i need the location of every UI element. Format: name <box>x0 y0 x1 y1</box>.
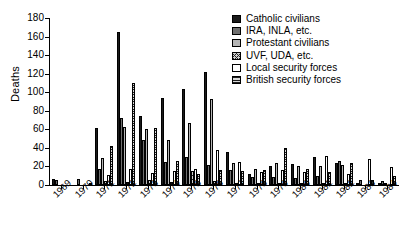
legend-swatch-protestant-civilians-icon <box>232 39 241 47</box>
bar-group-1972 <box>115 18 137 185</box>
legend-label: Catholic civilians <box>246 14 320 24</box>
y-tick-label: 100 <box>18 87 44 97</box>
bar-group-1970 <box>72 18 94 185</box>
y-tick-label: 140 <box>18 50 44 60</box>
bar-chart: Deaths 020406080100120140160180 19691970… <box>0 0 410 228</box>
y-tick-mark <box>45 55 49 56</box>
legend-item-protestant-civilians[interactable]: Protestant civilians <box>232 37 408 49</box>
bar-group-1971 <box>94 18 116 185</box>
x-label-cell: 1976 <box>202 190 224 228</box>
legend-label: Protestant civilians <box>246 38 329 48</box>
x-label-cell: 1971 <box>94 190 116 228</box>
y-tick-mark <box>45 18 49 19</box>
x-label-cell: 1972 <box>115 190 137 228</box>
legend-label: British security forces <box>246 75 341 85</box>
y-tick-mark <box>45 129 49 130</box>
bar-group-1975 <box>181 18 203 185</box>
x-axis-tick-labels: 1969197019711972197319741975197619771978… <box>50 190 398 228</box>
y-tick-mark <box>45 148 49 149</box>
legend-item-ira-inla-etc[interactable]: IRA, INLA, etc. <box>232 25 408 37</box>
y-tick-mark <box>45 74 49 75</box>
legend-swatch-ira-inla-icon <box>232 27 241 35</box>
y-tick-label: 180 <box>18 13 44 23</box>
legend-label: UVF, UDA, etc. <box>246 51 313 61</box>
y-tick-label: 160 <box>18 32 44 42</box>
x-label-cell: 1973 <box>137 190 159 228</box>
y-tick-label: 40 <box>18 143 44 153</box>
x-label-cell: 1969 <box>50 190 72 228</box>
legend-item-catholic-civilians[interactable]: Catholic civilians <box>232 13 408 25</box>
bar-group-1973 <box>137 18 159 185</box>
x-label-cell: 1979 <box>268 190 290 228</box>
y-tick-label: 0 <box>18 180 44 190</box>
legend-label: IRA, INLA, etc. <box>246 26 312 36</box>
legend-swatch-local-security-forces-icon <box>232 64 241 72</box>
y-tick-mark <box>45 92 49 93</box>
y-axis-tick-labels: 020406080100120140160180 <box>18 0 44 228</box>
y-tick-label: 20 <box>18 161 44 171</box>
x-label-cell: 1984 <box>376 190 398 228</box>
legend-swatch-british-security-forces-icon <box>232 76 241 84</box>
y-tick-mark <box>45 111 49 112</box>
y-tick-label: 60 <box>18 124 44 134</box>
y-tick-label: 80 <box>18 106 44 116</box>
legend-swatch-catholic-civilians-icon <box>232 15 241 23</box>
y-tick-mark <box>45 185 49 186</box>
legend-item-british-security-forces[interactable]: British security forces <box>232 74 408 86</box>
legend-item-uvf-uda-etc[interactable]: UVF, UDA, etc. <box>232 50 408 62</box>
x-label-cell: 1981 <box>311 190 333 228</box>
y-tick-mark <box>45 37 49 38</box>
x-label-cell: 1982 <box>333 190 355 228</box>
x-label-cell: 1974 <box>159 190 181 228</box>
bar-1976-protestant-civilians <box>210 99 213 185</box>
bar-group-1974 <box>159 18 181 185</box>
bar-1974-protestant-civilians <box>167 140 170 185</box>
legend-swatch-uvf-uda-icon <box>232 52 241 60</box>
x-label-cell: 1970 <box>72 190 94 228</box>
legend-label: Local security forces <box>246 63 337 73</box>
chart-legend: Catholic civiliansIRA, INLA, etc.Protest… <box>232 13 408 86</box>
legend-item-local-security-forces[interactable]: Local security forces <box>232 62 408 74</box>
bar-1973-protestant-civilians <box>145 129 148 185</box>
x-label-cell: 1978 <box>246 190 268 228</box>
y-tick-mark <box>45 166 49 167</box>
bar-1973-british-security-forces <box>154 128 157 185</box>
bar-group-1976 <box>202 18 224 185</box>
x-label-cell: 1975 <box>181 190 203 228</box>
bar-group-1969 <box>50 18 72 185</box>
x-label-cell: 1983 <box>355 190 377 228</box>
bar-1972-british-security-forces <box>132 83 135 185</box>
bar-1972-protestant-civilians <box>123 127 126 185</box>
y-tick-label: 120 <box>18 69 44 79</box>
x-label-cell: 1980 <box>289 190 311 228</box>
x-label-cell: 1977 <box>224 190 246 228</box>
